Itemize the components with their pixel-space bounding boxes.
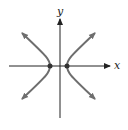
right-vertex-point (65, 64, 70, 69)
hyperbola-diagram: y x (0, 0, 128, 130)
hyperbola-right-branch-lower (67, 66, 95, 99)
x-axis-label: x (114, 59, 121, 72)
hyperbola-right-branch-upper (67, 33, 95, 66)
hyperbola-left-branch-upper (22, 33, 50, 66)
y-axis-label: y (56, 5, 64, 18)
left-vertex-point (48, 64, 53, 69)
hyperbola-left-branch-lower (22, 66, 50, 99)
